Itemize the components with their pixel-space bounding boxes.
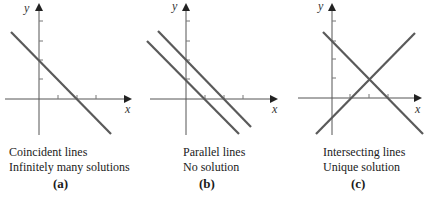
panel-a-axes: y x xyxy=(5,1,131,135)
caption-line-2: Infinitely many solutions xyxy=(9,160,130,175)
panel-b-axes: y x xyxy=(150,0,278,135)
panel-a-caption: Coincident lines Infinitely many solutio… xyxy=(9,145,130,175)
panel-c-caption: Intersecting lines Unique solution xyxy=(323,145,405,175)
caption-line-2: Unique solution xyxy=(323,160,405,175)
caption-line-2: No solution xyxy=(183,160,245,175)
y-axis-label: y xyxy=(23,1,30,15)
y-ticks xyxy=(39,21,43,79)
x-axis-label: x xyxy=(271,102,278,116)
y-axis-label: y xyxy=(317,0,324,13)
line-c-decreasing xyxy=(323,32,423,134)
line-c-increasing xyxy=(316,33,415,134)
caption-line-1: Intersecting lines xyxy=(323,145,405,160)
y-ticks xyxy=(332,21,336,78)
x-axis-label: x xyxy=(414,102,421,116)
line-a-coincident xyxy=(11,32,111,134)
caption-line-1: Parallel lines xyxy=(183,145,245,160)
line-b-lower xyxy=(147,41,239,134)
y-axis-label: y xyxy=(171,0,178,13)
panel-a-label: (a) xyxy=(53,176,68,192)
x-axis-label: x xyxy=(124,102,131,116)
caption-line-1: Coincident lines xyxy=(9,145,130,160)
panel-c-axes: y x xyxy=(298,0,421,135)
panel-b-caption: Parallel lines No solution xyxy=(183,145,245,175)
y-ticks xyxy=(186,21,190,79)
panel-c-label: (c) xyxy=(351,176,365,192)
panel-b-label: (b) xyxy=(199,176,215,192)
line-b-upper xyxy=(158,31,251,127)
